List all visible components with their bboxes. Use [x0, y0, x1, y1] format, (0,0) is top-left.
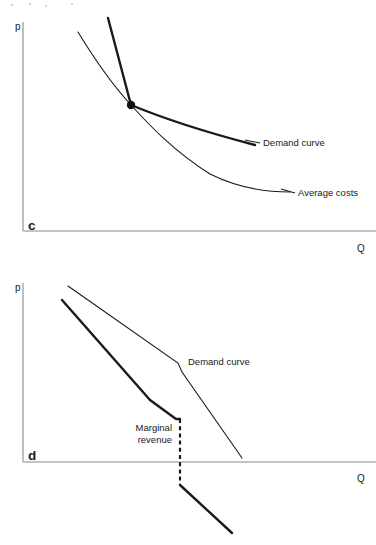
panel-c-demand-label: Demand curve	[263, 137, 325, 148]
panel-c-demand-curve	[108, 18, 255, 145]
panel-d-y-axis-label: p	[15, 282, 21, 293]
panel-d-marginal-revenue-lower	[180, 485, 232, 533]
panel-c-average-costs-curve	[78, 32, 290, 192]
panel-d-marginal-revenue-label-line1: Marginal	[136, 422, 172, 433]
panel-c-letter: c	[28, 218, 36, 233]
panel-d-x-axis-label: Q	[357, 473, 365, 484]
panel-c-chart: Demand curve Average costs p Q c	[0, 0, 376, 268]
figure-root: Demand curve Average costs p Q c Demand …	[0, 0, 376, 545]
panel-d-demand-label: Demand curve	[188, 356, 250, 367]
panel-c-average-costs-label: Average costs	[298, 187, 358, 198]
panel-d-marginal-revenue-label-line2: revenue	[138, 434, 172, 445]
panel-c: Demand curve Average costs p Q c	[0, 0, 376, 268]
panel-c-tangency-point	[127, 101, 135, 109]
panel-d: Demand curve Marginal revenue p Q d	[0, 268, 376, 545]
panel-c-x-axis-label: Q	[357, 243, 365, 254]
panel-c-speckles	[11, 3, 73, 7]
panel-d-marginal-revenue-upper	[62, 300, 180, 419]
panel-d-chart: Demand curve Marginal revenue p Q d	[0, 268, 376, 545]
panel-c-y-axis-label: p	[15, 21, 21, 32]
panel-d-letter: d	[28, 448, 36, 463]
